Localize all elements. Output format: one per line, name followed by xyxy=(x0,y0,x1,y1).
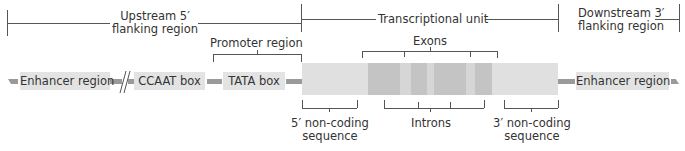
enhancer-region-left-box: Enhancer region xyxy=(20,72,110,90)
three-prime-noncoding-label: 3′ non-coding sequence xyxy=(492,117,572,143)
upstream-flanking-label: Upstream 5′ flanking region xyxy=(112,10,198,36)
dna-strand-right-tip xyxy=(671,79,679,84)
dna-strand-left-tip xyxy=(8,79,18,84)
exon-1 xyxy=(368,63,400,95)
dna-strand-segment xyxy=(207,79,222,84)
introns-label: Introns xyxy=(405,117,457,130)
break-symbol-icon xyxy=(118,70,132,94)
transcriptional-unit-label: Transcriptional unit xyxy=(378,13,483,26)
ccaat-box: CCAAT box xyxy=(134,72,205,90)
five-prime-noncoding-label: 5′ non-coding sequence xyxy=(290,117,370,143)
exon-2 xyxy=(411,63,427,95)
intron-3 xyxy=(466,63,475,95)
intron-2 xyxy=(427,63,434,95)
enhancer-region-right-box: Enhancer region xyxy=(576,72,669,90)
promoter-region-label: Promoter region xyxy=(210,37,302,50)
exon-4 xyxy=(475,63,492,95)
intron-1 xyxy=(400,63,411,95)
tata-box: TATA box xyxy=(223,72,285,90)
downstream-flanking-label: Downstream 3′ flanking region xyxy=(578,7,656,33)
dna-strand-segment xyxy=(558,79,575,84)
exon-3 xyxy=(434,63,466,95)
dna-strand-segment xyxy=(286,79,302,84)
gene-body xyxy=(302,63,558,95)
